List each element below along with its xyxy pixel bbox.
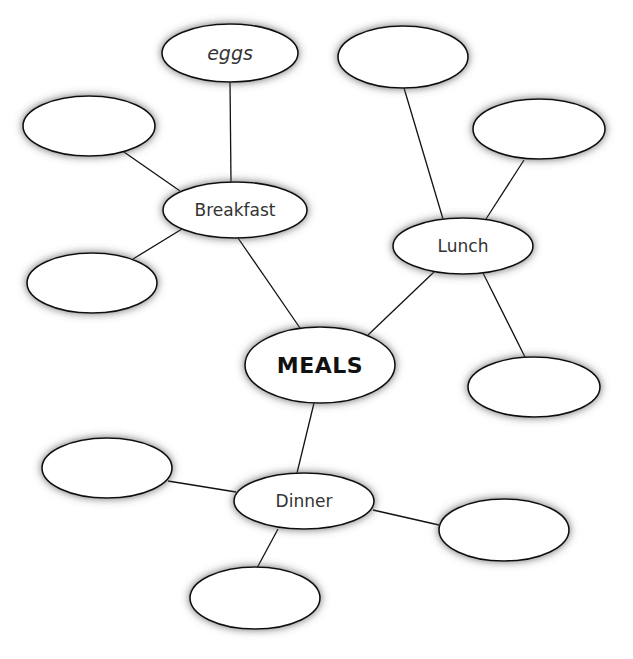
ellipse-dinner-blank-3 <box>190 567 320 629</box>
node-dinner-blank-1 <box>42 438 172 498</box>
label-breakfast: Breakfast <box>195 200 276 220</box>
node-dinner-blank-3 <box>190 567 320 629</box>
ellipse-breakfast-blank-1 <box>23 96 155 156</box>
ellipse-lunch-blank-1 <box>338 26 468 88</box>
connector-meals-breakfast <box>238 238 300 328</box>
connector-meals-lunch <box>368 272 434 335</box>
node-ellipses: MEALSBreakfastLunchDinnereggs <box>23 24 605 629</box>
ellipse-lunch-blank-3 <box>468 357 600 417</box>
node-meals: MEALS <box>245 327 395 403</box>
node-lunch-blank-3 <box>468 357 600 417</box>
node-lunch-blank-1 <box>338 26 468 88</box>
node-breakfast-blank-1 <box>23 96 155 156</box>
connector-breakfast-eggs <box>230 82 231 182</box>
node-eggs: eggs <box>162 24 298 82</box>
connector-dinner-dinner-blank-2 <box>373 510 439 525</box>
connector-lunch-lunch-blank-1 <box>404 88 443 219</box>
connector-meals-dinner <box>297 403 314 473</box>
node-lunch-blank-2 <box>473 99 605 159</box>
ellipse-breakfast-blank-2 <box>27 253 157 313</box>
node-breakfast: Breakfast <box>163 182 307 238</box>
label-eggs: eggs <box>207 42 253 64</box>
connector-breakfast-breakfast-blank-1 <box>124 152 180 191</box>
ellipse-dinner-blank-2 <box>439 499 569 561</box>
ellipse-lunch-blank-2 <box>473 99 605 159</box>
ellipse-dinner-blank-1 <box>42 438 172 498</box>
node-dinner: Dinner <box>234 473 374 529</box>
connector-dinner-dinner-blank-1 <box>168 481 236 492</box>
label-meals: MEALS <box>277 353 363 378</box>
connector-dinner-dinner-blank-3 <box>257 529 278 568</box>
connector-lunch-lunch-blank-2 <box>486 160 524 219</box>
connector-breakfast-breakfast-blank-2 <box>133 229 182 259</box>
label-lunch: Lunch <box>438 236 489 256</box>
label-dinner: Dinner <box>276 491 333 511</box>
node-lunch: Lunch <box>393 218 533 274</box>
mind-map: MEALSBreakfastLunchDinnereggs <box>0 0 633 659</box>
node-dinner-blank-2 <box>439 499 569 561</box>
node-breakfast-blank-2 <box>27 253 157 313</box>
connector-lunch-lunch-blank-3 <box>483 273 525 357</box>
